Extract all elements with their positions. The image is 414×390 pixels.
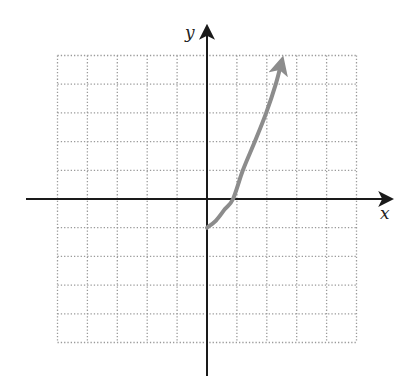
x-axis-label: x [380, 203, 390, 223]
coordinate-plane: x y [0, 0, 414, 390]
y-axis-label: y [184, 22, 195, 42]
function-curve [207, 61, 282, 227]
axes: x y [26, 22, 391, 376]
